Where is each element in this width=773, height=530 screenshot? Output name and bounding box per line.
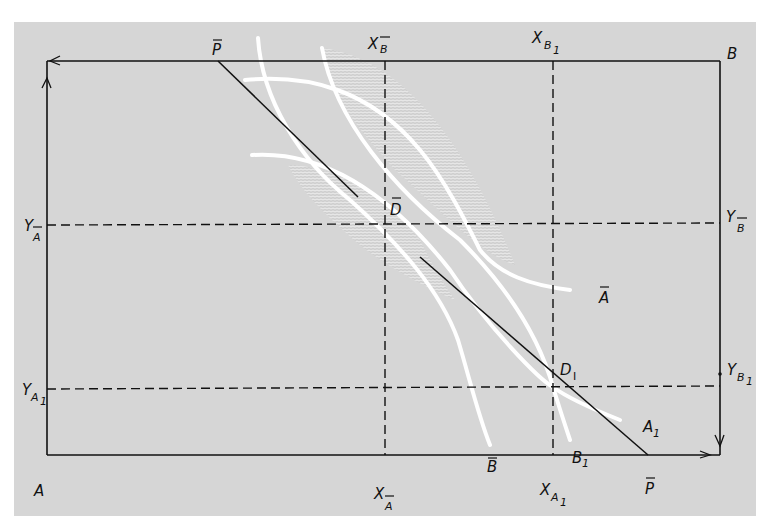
y-b1-point xyxy=(718,372,722,376)
svg-text:A: A xyxy=(598,289,609,307)
svg-text:P: P xyxy=(212,41,222,59)
label-point-d-bar: D xyxy=(390,198,402,219)
label-x-b1: X B 1 xyxy=(531,29,560,57)
svg-text:D: D xyxy=(560,361,572,379)
svg-text:1: 1 xyxy=(746,375,753,388)
indifference-curves xyxy=(245,38,620,445)
svg-text:A: A xyxy=(384,500,393,513)
svg-text:X: X xyxy=(373,485,385,503)
svg-text:1: 1 xyxy=(40,395,47,408)
label-origin-b: B xyxy=(727,45,737,63)
svg-text:1: 1 xyxy=(582,457,589,470)
svg-text:A: A xyxy=(30,391,39,404)
label-curve-a1: A 1 xyxy=(642,418,660,440)
label-x-b-bar: X B xyxy=(367,35,390,56)
svg-text:I: I xyxy=(573,370,576,383)
svg-text:D: D xyxy=(390,201,402,219)
svg-text:B: B xyxy=(737,371,745,384)
label-p-bar-top: P xyxy=(212,40,222,59)
svg-text:1: 1 xyxy=(653,427,660,440)
svg-text:Y: Y xyxy=(726,208,737,226)
svg-text:A: A xyxy=(32,231,41,244)
label-curve-b1: B 1 xyxy=(572,449,589,470)
svg-text:X: X xyxy=(531,29,543,47)
svg-text:B: B xyxy=(380,43,388,56)
svg-text:A: A xyxy=(550,491,559,504)
svg-text:B: B xyxy=(572,449,582,467)
label-y-b1: Y B 1 xyxy=(727,361,753,388)
svg-text:B: B xyxy=(487,458,497,476)
svg-text:B: B xyxy=(737,222,745,235)
label-point-d-one: D I xyxy=(560,361,576,383)
label-curve-a-bar: A xyxy=(598,287,609,307)
edgeworth-box-diagram: P P X B X B 1 B A Y A Y A 1 Y B Y B 1 xyxy=(0,0,773,530)
svg-text:P: P xyxy=(645,480,655,498)
label-y-a1: Y A 1 xyxy=(22,381,47,408)
label-origin-a: A xyxy=(33,482,44,500)
svg-text:1: 1 xyxy=(560,496,567,509)
label-p-bar-bottom: P xyxy=(645,478,655,498)
svg-text:X: X xyxy=(367,35,379,53)
label-y-a-bar: Y A xyxy=(24,217,42,244)
svg-text:X: X xyxy=(539,481,551,499)
svg-text:B: B xyxy=(544,39,552,52)
y-a1-guide xyxy=(47,386,720,389)
label-x-a-bar: X A xyxy=(373,485,394,513)
y-a-bar-guide xyxy=(47,223,720,225)
label-x-a1: X A 1 xyxy=(539,481,567,509)
label-y-b-bar: Y B xyxy=(726,208,747,235)
svg-text:1: 1 xyxy=(553,44,560,57)
svg-text:A: A xyxy=(642,418,653,436)
label-curve-b-bar: B xyxy=(487,458,497,476)
